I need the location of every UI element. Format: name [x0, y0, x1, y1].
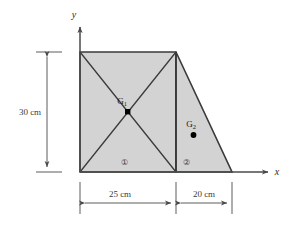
- shaded-area-group: [80, 52, 232, 172]
- width-dimension-1-group: 25 cm: [80, 182, 176, 214]
- region-2-marker: ②: [183, 158, 190, 167]
- geometry-diagram: y x G1 G2 ① ② 30 cm: [0, 0, 297, 228]
- height-dim-label: 30 cm: [19, 107, 41, 117]
- height-dimension-group: 30 cm: [19, 52, 62, 172]
- x-axis-label: x: [274, 166, 280, 177]
- width-dimension-2-group: 20 cm: [181, 182, 232, 214]
- region-2-triangle: [176, 52, 232, 172]
- centroid-g1-dot: [125, 109, 130, 114]
- region-1-marker: ①: [121, 158, 128, 167]
- figure-container: y x G1 G2 ① ② 30 cm: [0, 0, 297, 228]
- width1-dim-label: 25 cm: [109, 189, 131, 199]
- centroid-g2-dot: [191, 132, 197, 138]
- width2-dim-label: 20 cm: [193, 189, 215, 199]
- y-axis-label: y: [71, 9, 77, 20]
- centroid-g2-subscript: 2: [193, 123, 196, 130]
- centroid-g1-subscript: 1: [124, 100, 127, 107]
